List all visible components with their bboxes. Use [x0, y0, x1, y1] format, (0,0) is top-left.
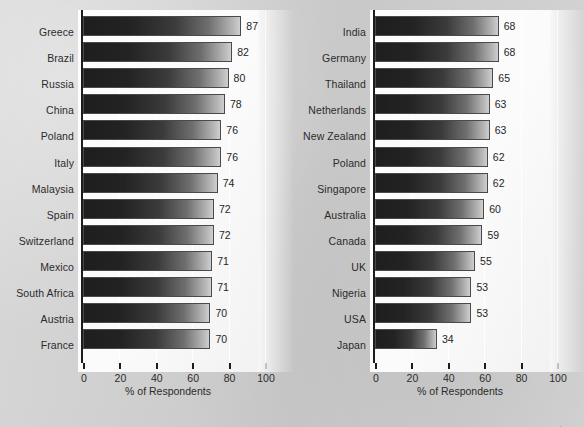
category-label: Italy: [54, 151, 74, 175]
bar-row: 53: [375, 303, 550, 327]
bar-value-label: 72: [219, 225, 231, 245]
bar-value-label: 34: [442, 329, 454, 349]
bar-value-label: 72: [219, 199, 231, 219]
bar-row: 62: [375, 147, 550, 171]
bar: [83, 199, 214, 219]
x-tick-label: 20: [407, 372, 419, 384]
bar-row: 63: [375, 94, 550, 118]
category-label: Germany: [322, 46, 366, 70]
bar-value-label: 63: [495, 120, 507, 140]
bar-row: 72: [83, 225, 258, 249]
category-label: Switzerland: [19, 229, 74, 253]
category-label: Nigeria: [332, 281, 366, 305]
category-label: Thailand: [325, 72, 366, 96]
bar-value-label: 87: [246, 16, 258, 36]
bar-value-label: 71: [217, 251, 229, 271]
bar-group-right: 68686563636262605955535334: [375, 16, 550, 357]
x-tick-label: 0: [81, 372, 87, 384]
bar-row: 59: [375, 225, 550, 249]
bar-row: 80: [83, 68, 258, 92]
bar: [375, 68, 493, 88]
bar-value-label: 68: [504, 42, 516, 62]
bar-value-label: 53: [476, 303, 488, 323]
bar-row: 70: [83, 303, 258, 327]
bar-row: 60: [375, 199, 550, 223]
category-label: Spain: [47, 203, 74, 227]
x-tick-marks-right: [375, 363, 550, 369]
x-tick: [83, 363, 85, 369]
plot-area-right: 68686563636262605955535334 020406080100: [370, 10, 550, 372]
category-label: France: [41, 333, 74, 357]
bar-row: 71: [83, 251, 258, 275]
bar: [83, 147, 221, 167]
category-label: Japan: [337, 333, 366, 357]
bar-row: 68: [375, 42, 550, 66]
bar: [83, 303, 210, 323]
bar-row: 76: [83, 147, 258, 171]
bar: [83, 251, 212, 271]
bar-row: 70: [83, 329, 258, 353]
bar: [83, 277, 212, 297]
x-tick-label: 80: [516, 372, 528, 384]
bar-row: 65: [375, 68, 550, 92]
category-label: Mexico: [40, 255, 74, 279]
x-axis-title-right: % of Respondents: [370, 385, 550, 397]
category-label: UK: [351, 255, 366, 279]
bar: [375, 42, 499, 62]
bar-value-label: 65: [498, 68, 510, 88]
category-label: Australia: [324, 203, 366, 227]
bar: [375, 251, 475, 271]
bar-row: 71: [83, 277, 258, 301]
bar-row: 53: [375, 277, 550, 301]
x-tick-label: 80: [224, 372, 236, 384]
bar-value-label: 60: [489, 199, 501, 219]
x-tick-label: 60: [479, 372, 491, 384]
bar-value-label: 68: [504, 16, 516, 36]
bar-row: 76: [83, 120, 258, 144]
x-tick-label: 60: [187, 372, 199, 384]
bar-value-label: 76: [226, 120, 238, 140]
x-tick: [229, 363, 231, 369]
bar: [375, 120, 490, 140]
x-tick: [448, 363, 450, 369]
bar: [375, 303, 471, 323]
plot-area-left: 87828078767674727271717070 020406080100: [78, 10, 258, 372]
bar-value-label: 80: [234, 68, 246, 88]
bar-row: 72: [83, 199, 258, 223]
bar: [375, 329, 437, 349]
chart-panel-left: GreeceBrazilRussiaChinaPolandItalyMalays…: [0, 0, 292, 427]
bar: [375, 277, 471, 297]
chart-panel-right: IndiaGermanyThailandNetherlandsNew Zeala…: [292, 0, 584, 427]
x-axis-title-left: % of Respondents: [78, 385, 258, 397]
x-tick-marks-left: [83, 363, 258, 369]
category-label: South Africa: [16, 281, 74, 305]
x-tick: [411, 363, 413, 369]
bar-row: 62: [375, 173, 550, 197]
bar-value-label: 53: [476, 277, 488, 297]
category-label: Poland: [41, 124, 74, 148]
bar-value-label: 82: [237, 42, 249, 62]
bar-row: 74: [83, 173, 258, 197]
bar: [375, 94, 490, 114]
category-labels-right: IndiaGermanyThailandNetherlandsNew Zeala…: [292, 18, 366, 358]
category-label: Malaysia: [32, 177, 74, 201]
bar-value-label: 70: [215, 329, 227, 349]
bar-value-label: 62: [493, 147, 505, 167]
x-tick: [119, 363, 121, 369]
bar-row: 87: [83, 16, 258, 40]
bar-row: 78: [83, 94, 258, 118]
category-label: USA: [344, 307, 366, 331]
bar: [375, 147, 488, 167]
bar-row: 63: [375, 120, 550, 144]
gridline: [557, 10, 558, 363]
bar: [83, 42, 232, 62]
x-tick-label: 100: [257, 372, 275, 384]
bar-value-label: 70: [215, 303, 227, 323]
category-label: Austria: [41, 307, 74, 331]
bar: [375, 225, 482, 245]
x-tick-label: 20: [115, 372, 127, 384]
category-label: Greece: [39, 20, 74, 44]
category-labels-left: GreeceBrazilRussiaChinaPolandItalyMalays…: [0, 18, 74, 358]
category-label: Brazil: [47, 46, 74, 70]
bar: [375, 173, 488, 193]
